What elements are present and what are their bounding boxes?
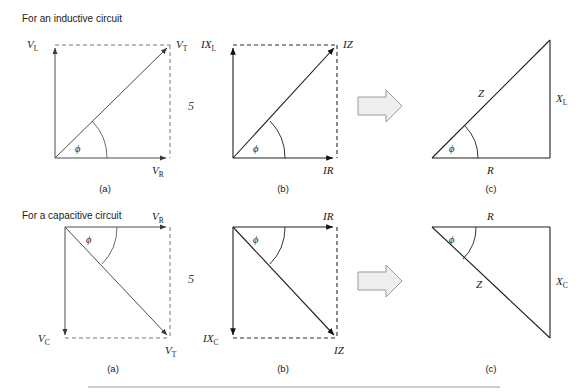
vector-VT bbox=[55, 48, 167, 158]
label-VR-cap: VR bbox=[152, 210, 164, 225]
label-R-r1c: R bbox=[486, 164, 494, 176]
label-IR: IR bbox=[322, 164, 334, 176]
phi-arc-r1a bbox=[92, 121, 107, 158]
caption-r1b: (b) bbox=[277, 183, 289, 194]
panel-capacitive-b: ϕ IR IXC IZ (b) bbox=[202, 210, 345, 374]
label-IZ: IZ bbox=[342, 38, 354, 50]
phi-arc-r1b bbox=[270, 121, 285, 158]
vector-IZ bbox=[233, 48, 334, 158]
phi-arc-r1c bbox=[465, 126, 478, 158]
phi-arc-r2a bbox=[102, 227, 117, 264]
label-Z-r2c: Z bbox=[476, 278, 483, 290]
caption-r2a: (a) bbox=[107, 363, 119, 374]
vector-VT-cap bbox=[65, 227, 167, 335]
label-VT-cap: VT bbox=[165, 344, 177, 359]
heading-inductive: For an inductive circuit bbox=[22, 13, 122, 24]
transition-arrow-capacitive bbox=[358, 265, 402, 297]
figure-canvas: For an inductive circuit ϕ VL VT VR (a) … bbox=[0, 0, 583, 392]
caption-r2b: (b) bbox=[277, 363, 289, 374]
phi-label-r1a: ϕ bbox=[75, 143, 81, 154]
panel-capacitive-c: ϕ R XC Z (c) bbox=[432, 210, 568, 374]
label-IXL: IXL bbox=[200, 38, 216, 53]
caption-r1c: (c) bbox=[485, 183, 496, 194]
phi-label-r2a: ϕ bbox=[86, 234, 92, 245]
label-VL: VL bbox=[27, 38, 39, 53]
phi-arc-r2b bbox=[270, 227, 285, 264]
phi-label-r1b: ϕ bbox=[253, 143, 259, 154]
label-Z-r1c: Z bbox=[478, 87, 485, 99]
label-XC: XC bbox=[555, 275, 568, 290]
phi-label-r2b: ϕ bbox=[253, 234, 259, 245]
side-Z-r1c bbox=[432, 40, 550, 158]
phi-arc-r2c bbox=[463, 227, 476, 259]
label-VT: VT bbox=[176, 38, 188, 53]
panel-inductive-a: ϕ VL VT VR (a) bbox=[27, 38, 188, 194]
label-VC: VC bbox=[38, 332, 50, 347]
caption-r2c: (c) bbox=[485, 363, 496, 374]
label-IZ-cap: IZ bbox=[333, 344, 345, 356]
label-XL: XL bbox=[555, 92, 568, 107]
marker-inductive: 5 bbox=[188, 99, 194, 113]
marker-capacitive: 5 bbox=[188, 272, 194, 286]
panel-inductive-b: ϕ IXL IZ IR (b) bbox=[200, 38, 354, 194]
vector-IZ-cap bbox=[233, 227, 334, 335]
panel-capacitive-a: ϕ VR VC VT (a) bbox=[38, 210, 177, 374]
phi-label-r1c: ϕ bbox=[449, 143, 455, 154]
phi-label-r2c: ϕ bbox=[449, 234, 455, 245]
transition-arrow-inductive bbox=[358, 90, 402, 122]
heading-capacitive: For a capacitive circuit bbox=[22, 210, 122, 221]
label-IXC: IXC bbox=[202, 332, 218, 347]
phasor-diagram-figure: For an inductive circuit ϕ VL VT VR (a) … bbox=[0, 0, 583, 392]
panel-inductive-c: ϕ Z XL R (c) bbox=[432, 40, 568, 194]
label-IR-cap: IR bbox=[322, 210, 334, 222]
caption-r1a: (a) bbox=[99, 183, 111, 194]
label-R-r2c: R bbox=[486, 210, 494, 222]
label-VR: VR bbox=[152, 164, 164, 179]
